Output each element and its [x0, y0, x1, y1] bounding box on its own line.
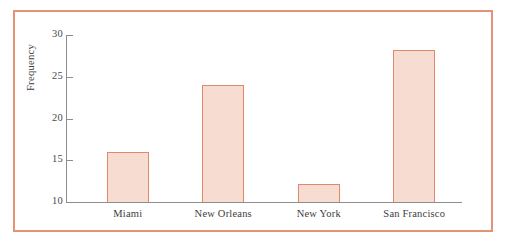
x-axis-label-new-york: New York — [271, 208, 367, 219]
x-axis-label-san-francisco: San Francisco — [367, 208, 463, 219]
chart-frame: Frequency 1015202530 MiamiNew OrleansNew… — [13, 10, 493, 232]
bar-chart-plot-area: Frequency 1015202530 MiamiNew OrleansNew… — [15, 12, 491, 230]
y-axis-tick — [66, 77, 73, 78]
y-axis-tick-label: 10 — [37, 195, 63, 206]
bar-new-york — [298, 184, 340, 202]
y-axis-tick-label: 15 — [37, 153, 63, 164]
y-axis-tick-label: 25 — [37, 70, 63, 81]
y-axis-tick-label: 30 — [37, 28, 63, 39]
y-axis-title: Frequency — [25, 3, 36, 133]
bar-miami — [107, 152, 149, 202]
x-axis-line — [66, 202, 462, 203]
y-axis-tick-label: 20 — [37, 112, 63, 123]
y-axis-tick — [66, 119, 73, 120]
x-axis-label-new-orleans: New Orleans — [176, 208, 272, 219]
bar-san-francisco — [393, 50, 435, 202]
y-axis-tick — [66, 160, 73, 161]
x-axis-label-miami: Miami — [80, 208, 176, 219]
y-axis-tick — [66, 202, 73, 203]
bar-new-orleans — [202, 85, 244, 202]
y-axis-tick — [66, 35, 73, 36]
